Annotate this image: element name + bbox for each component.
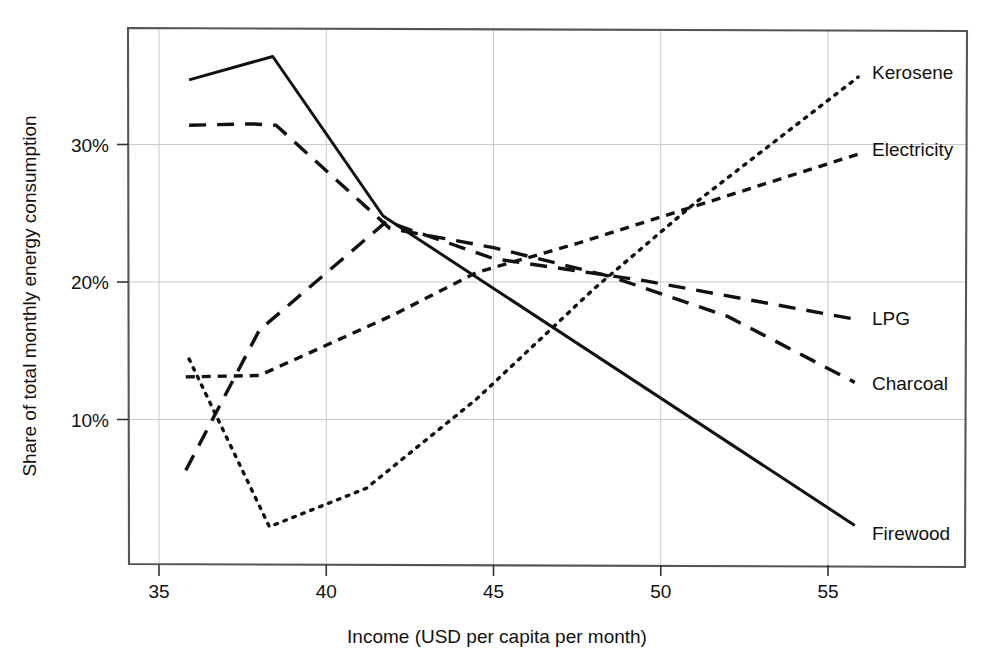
series-label-firewood: Firewood [872, 523, 950, 544]
y-tick-label: 20% [71, 272, 109, 293]
x-axis-title: Income (USD per capita per month) [347, 626, 647, 647]
x-tick-label: 55 [817, 581, 838, 602]
energy-share-line-chart: 3540455055 10%20%30% KeroseneElectricity… [0, 0, 995, 665]
series-label-lpg: LPG [872, 308, 910, 329]
y-tick-label: 10% [71, 410, 109, 431]
x-tick-label: 40 [316, 581, 337, 602]
y-axis-title: Share of total monthly energy consumptio… [19, 115, 40, 476]
series-label-charcoal: Charcoal [872, 373, 948, 394]
series-label-kerosene: Kerosene [872, 62, 953, 83]
y-tick-label: 30% [71, 135, 109, 156]
x-tick-label: 35 [148, 581, 169, 602]
x-tick-label: 50 [650, 581, 671, 602]
series-label-electricity: Electricity [872, 139, 954, 160]
chart-figure: 3540455055 10%20%30% KeroseneElectricity… [0, 0, 995, 665]
x-tick-label: 45 [483, 581, 504, 602]
